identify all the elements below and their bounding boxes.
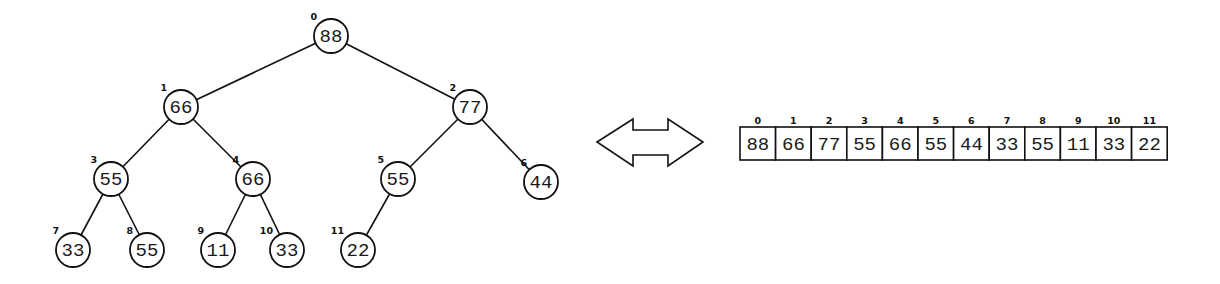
array-cell-value: 77 <box>818 134 841 156</box>
node-index-label: 1 <box>160 82 167 93</box>
array-cell-index: 5 <box>932 115 939 126</box>
array-cell-index: 11 <box>1143 115 1156 126</box>
array-cell-index: 2 <box>826 115 833 126</box>
array-cell-value: 66 <box>782 134 805 156</box>
array-cell-index: 7 <box>1004 115 1011 126</box>
node-index-label: 10 <box>260 225 274 236</box>
array-cell-value: 55 <box>924 134 947 156</box>
double-headed-arrow-icon <box>597 119 703 166</box>
array-cell-value: 55 <box>853 134 876 156</box>
tree-edge <box>331 36 470 107</box>
node-index-label: 3 <box>90 154 97 165</box>
heap-array: 88066177255366455544633755811933102211 <box>740 115 1167 160</box>
node-index-label: 2 <box>449 82 456 93</box>
array-cell-value: 55 <box>1031 134 1054 156</box>
array-cell-index: 8 <box>1039 115 1046 126</box>
node-index-label: 8 <box>126 225 133 236</box>
array-cell: 558 <box>1025 115 1061 160</box>
node-value: 11 <box>207 240 230 262</box>
node-value: 66 <box>170 97 193 119</box>
heap-tree: 88066177255366455544633755811933102211 <box>52 11 558 267</box>
array-cell: 119 <box>1060 115 1096 160</box>
array-cell-value: 33 <box>1102 134 1125 156</box>
array-cell: 3310 <box>1096 115 1132 160</box>
node-value: 55 <box>100 169 123 191</box>
node-value: 33 <box>62 240 85 262</box>
heap-diagram: 88066177255366455544633755811933102211 8… <box>0 0 1220 284</box>
tree-node: 661 <box>160 82 198 124</box>
node-index-label: 4 <box>232 154 239 165</box>
array-cell: 555 <box>918 115 954 160</box>
node-value: 55 <box>387 169 410 191</box>
tree-node: 880 <box>310 11 348 53</box>
node-value: 88 <box>320 26 343 48</box>
array-cell-value: 22 <box>1138 134 1161 156</box>
array-cell-index: 3 <box>861 115 868 126</box>
node-index-label: 7 <box>52 225 59 236</box>
tree-edge <box>181 36 331 107</box>
node-value: 55 <box>136 240 159 262</box>
array-cell-value: 66 <box>889 134 912 156</box>
array-cell-value: 88 <box>746 134 769 156</box>
tree-node: 772 <box>449 82 487 124</box>
array-cell: 880 <box>740 115 776 160</box>
tree-node: 3310 <box>260 225 304 267</box>
tree-node: 558 <box>126 225 164 267</box>
tree-edges <box>73 36 541 250</box>
node-index-label: 11 <box>331 225 344 236</box>
array-cell-index: 10 <box>1107 115 1121 126</box>
tree-node: 446 <box>520 157 558 199</box>
tree-node: 119 <box>197 225 235 267</box>
node-value: 22 <box>347 240 370 262</box>
node-value: 77 <box>459 97 482 119</box>
array-cell-value: 33 <box>996 134 1019 156</box>
array-cell: 661 <box>776 115 812 160</box>
array-cell: 553 <box>847 115 883 160</box>
tree-node: 555 <box>377 154 415 196</box>
array-cell-index: 1 <box>790 115 797 126</box>
array-cell: 2211 <box>1132 115 1168 160</box>
node-value: 66 <box>242 169 265 191</box>
node-index-label: 5 <box>377 154 384 165</box>
array-cell: 446 <box>954 115 990 160</box>
node-value: 33 <box>276 240 299 262</box>
array-cell-index: 6 <box>968 115 975 126</box>
array-cell-index: 4 <box>897 115 904 126</box>
node-value: 44 <box>530 172 553 194</box>
node-index-label: 0 <box>310 11 317 22</box>
array-cell: 337 <box>989 115 1025 160</box>
tree-node: 553 <box>90 154 128 196</box>
node-index-label: 6 <box>520 157 527 168</box>
array-cell-index: 0 <box>754 115 761 126</box>
array-cell: 664 <box>882 115 918 160</box>
tree-node: 664 <box>232 154 270 196</box>
array-cell-value: 11 <box>1067 134 1090 156</box>
array-cell-index: 9 <box>1075 115 1082 126</box>
array-cell-value: 44 <box>960 134 983 156</box>
array-cell: 772 <box>811 115 847 160</box>
tree-node: 337 <box>52 225 90 267</box>
node-index-label: 9 <box>197 225 204 236</box>
